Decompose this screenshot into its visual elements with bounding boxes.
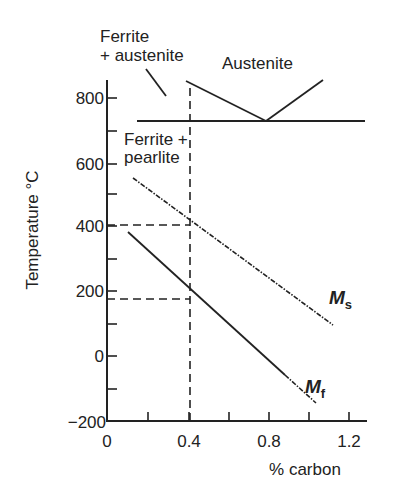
y-tick-label: 800: [76, 89, 104, 108]
y-tick-label: 400: [76, 217, 104, 236]
label-ferrite-austenite-line2: + austenite: [100, 46, 184, 65]
region-labels: Ferrite + austenite Austenite Ferrite + …: [100, 27, 293, 167]
mf-line: [128, 232, 316, 403]
ferrite-austenite-pointer: [146, 69, 166, 96]
x-axis-title: % carbon: [269, 460, 341, 479]
x-tick-label: 0.4: [177, 432, 201, 451]
iron-carbon-martensite-chart: 800 600 400 200 0 −200 0 0.4 0.8 1.2 % c…: [0, 0, 393, 500]
label-ms: Ms: [329, 287, 352, 312]
label-austenite: Austenite: [222, 54, 293, 73]
y-tick-labels: 800 600 400 200 0 −200: [68, 89, 106, 432]
curve-labels: Ms Mf: [305, 287, 352, 401]
y-axis-title: Temperature °C: [23, 170, 42, 289]
y-tick-label: 200: [76, 282, 104, 301]
label-ferrite-austenite-line1: Ferrite: [100, 27, 149, 46]
x-ticks: [148, 412, 349, 421]
x-tick-label: 0.8: [257, 432, 281, 451]
phase-boundaries: [137, 69, 365, 121]
label-mf: Mf: [305, 376, 326, 401]
ms-line: [133, 178, 333, 325]
a3-line: [186, 81, 266, 121]
acm-line: [266, 80, 323, 121]
x-tick-labels: 0 0.4 0.8 1.2: [102, 432, 361, 451]
label-ferrite-pearlite-line2: pearlite: [124, 148, 180, 167]
label-ferrite-pearlite-line1: Ferrite +: [124, 130, 188, 149]
y-tick-label: 0: [95, 347, 104, 366]
y-ticks: [107, 98, 117, 389]
x-tick-label: 1.2: [337, 432, 361, 451]
y-tick-label: 600: [76, 155, 104, 174]
y-tick-label: −200: [68, 413, 106, 432]
x-tick-label: 0: [102, 432, 111, 451]
